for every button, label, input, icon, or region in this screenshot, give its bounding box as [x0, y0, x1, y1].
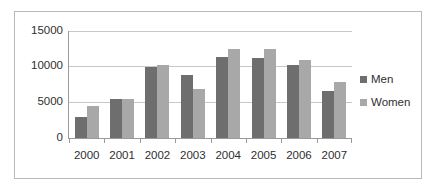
bar-women-2004[interactable]: [228, 49, 240, 138]
bar-women-2005[interactable]: [264, 49, 276, 138]
x-axis-labels: 20002001200220032004200520062007: [69, 146, 352, 164]
bar-women-2002[interactable]: [157, 65, 169, 138]
x-tick-mark-2007: [317, 138, 318, 143]
x-axis-label-2001: 2001: [104, 146, 139, 164]
legend-item-men[interactable]: Men: [360, 68, 420, 91]
bar-group-2006: [281, 31, 316, 138]
legend-swatch-men-icon: [360, 76, 367, 83]
x-tick-mark-2006: [281, 138, 282, 143]
bar-men-2002[interactable]: [145, 67, 157, 138]
x-tick-cell-2004: [211, 138, 246, 143]
bar-men-2007[interactable]: [322, 91, 334, 138]
bar-women-2003[interactable]: [193, 89, 205, 138]
bar-men-2003[interactable]: [181, 75, 193, 138]
bar-men-2005[interactable]: [252, 58, 264, 138]
bar-group-2004: [211, 31, 246, 138]
x-axis-label-2005: 2005: [246, 146, 281, 164]
bar-group-2002: [140, 31, 175, 138]
bar-men-2006[interactable]: [287, 65, 299, 138]
y-tick-label-10000: 10000: [15, 60, 63, 72]
bar-group-2003: [175, 31, 210, 138]
x-tick-mark-2003: [175, 138, 176, 143]
legend-label-men: Men: [371, 74, 393, 86]
x-tick-mark-2004: [211, 138, 212, 143]
chart-frame: 15000 10000 5000 0 200020012002200320042…: [14, 11, 422, 179]
x-axis-label-2002: 2002: [140, 146, 175, 164]
bar-women-2001[interactable]: [122, 99, 134, 138]
bar-men-2001[interactable]: [110, 99, 122, 138]
chart-legend: Men Women: [360, 68, 420, 114]
bar-group-2005: [246, 31, 281, 138]
x-tick-cell-2002: [140, 138, 175, 143]
x-tick-mark-2005: [246, 138, 247, 143]
x-axis-label-2000: 2000: [69, 146, 104, 164]
x-tick-cell-2005: [246, 138, 281, 143]
x-tick-cell-2003: [175, 138, 210, 143]
x-tick-cell-2006: [281, 138, 316, 143]
x-tick-cell-2001: [104, 138, 139, 143]
legend-item-women[interactable]: Women: [360, 91, 420, 114]
x-tick-cell-2007: [317, 138, 352, 143]
x-axis-label-2006: 2006: [281, 146, 316, 164]
bar-group-2000: [69, 31, 104, 138]
y-tick-label-15000: 15000: [15, 25, 63, 37]
x-tick-mark-2002: [140, 138, 141, 143]
x-tick-mark-2000: [69, 138, 70, 143]
legend-swatch-women-icon: [360, 99, 367, 106]
x-axis-label-2004: 2004: [211, 146, 246, 164]
y-axis-labels: 15000 10000 5000 0: [15, 12, 63, 180]
x-tick-mark-2001: [104, 138, 105, 143]
bar-men-2000[interactable]: [75, 117, 87, 138]
x-axis-ticks: [69, 138, 352, 143]
y-tick-label-0: 0: [15, 132, 63, 144]
x-tick-cell-2000: [69, 138, 104, 143]
bar-women-2007[interactable]: [334, 82, 346, 138]
bar-women-2000[interactable]: [87, 106, 99, 138]
bar-group-2001: [104, 31, 139, 138]
bar-women-2006[interactable]: [299, 60, 311, 138]
legend-label-women: Women: [371, 97, 410, 109]
x-axis-label-2007: 2007: [317, 146, 352, 164]
bar-series-container: [69, 31, 352, 138]
y-tick-label-5000: 5000: [15, 96, 63, 108]
x-axis-label-2003: 2003: [175, 146, 210, 164]
x-tick-mark-end: [351, 138, 352, 143]
bar-men-2004[interactable]: [216, 57, 228, 138]
bar-group-2007: [317, 31, 352, 138]
